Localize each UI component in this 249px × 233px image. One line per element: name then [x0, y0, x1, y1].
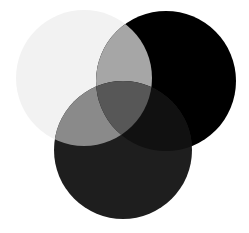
venn-svg [0, 0, 249, 233]
venn-diagram [0, 0, 249, 233]
